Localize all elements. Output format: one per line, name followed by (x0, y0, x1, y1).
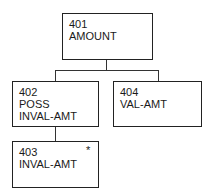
node-id: 401 (69, 18, 152, 30)
connector-horizontal (55, 70, 159, 71)
node-id: 402 (19, 86, 98, 98)
connector-to-404 (158, 70, 159, 81)
node-label: INVAL-AMT (19, 158, 98, 170)
node-label: AMOUNT (69, 30, 152, 42)
node-label: POSS (19, 98, 98, 110)
node-401: 401 AMOUNT (62, 13, 153, 60)
node-id: 404 (120, 86, 201, 98)
connector-401-trunk (106, 60, 107, 70)
node-404: 404 VAL-AMT (113, 81, 202, 127)
node-402: 402 POSS INVAL-AMT (12, 81, 99, 127)
asterisk-marker: * (86, 144, 90, 156)
node-label: INVAL-AMT (19, 110, 98, 122)
connector-402-403 (55, 127, 56, 141)
connector-to-402 (55, 70, 56, 81)
node-label: VAL-AMT (120, 98, 201, 110)
